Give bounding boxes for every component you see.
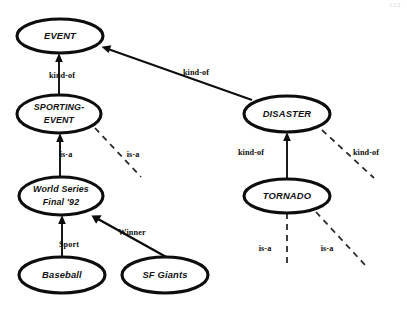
node-shape[interactable] — [19, 177, 103, 215]
edge-label: kind-of — [49, 71, 75, 80]
edge-sporting-event-to-event: kind-of — [49, 53, 75, 95]
node-label: DISASTER — [263, 108, 312, 119]
edge-tornado-instance-dashed-left: is-a — [259, 213, 287, 265]
edge-tornado-to-disaster: kind-of — [238, 132, 291, 178]
edge-label: is-a — [60, 150, 73, 159]
edge-label: is-a — [127, 150, 140, 159]
edge-sporting-event-instance-dashed: is-a — [95, 128, 141, 177]
edge-label: Winner — [118, 228, 146, 237]
edge-label: is-a — [321, 244, 334, 253]
edge-label: Sport — [59, 240, 79, 249]
edge-world-series-to-sporting-event: is-a — [56, 133, 72, 177]
edge-label: is-a — [259, 244, 272, 253]
node-world-series[interactable]: World Series Final '92 — [19, 177, 103, 215]
node-label-line2: Final '92 — [43, 197, 80, 207]
edge-tornado-instance-dashed-right: is-a — [316, 212, 366, 266]
edge-label: kind-of — [238, 148, 264, 157]
node-shape[interactable] — [17, 95, 101, 133]
node-label-line2: EVENT — [44, 115, 76, 125]
edge-label: kind-of — [353, 148, 379, 157]
edge-disaster-instance-dashed: kind-of — [322, 130, 379, 178]
node-event[interactable]: EVENT — [17, 19, 103, 53]
edge-line — [108, 49, 252, 100]
semantic-network-diagram: kind-of kind-of is-a is-a — [0, 0, 407, 318]
node-sporting-event[interactable]: SPORTING- EVENT — [17, 95, 101, 133]
node-label-line1: World Series — [33, 184, 89, 194]
node-tornado[interactable]: TORNADO — [244, 179, 330, 213]
node-label-line1: SPORTING- — [34, 102, 85, 112]
node-sf-giants[interactable]: SF Giants — [122, 257, 208, 293]
node-label: SF Giants — [142, 269, 187, 280]
edge-baseball-to-world-series: Sport — [58, 215, 79, 257]
node-label: TORNADO — [263, 190, 312, 201]
arrow-head-icon — [102, 45, 112, 53]
page-number: 122 — [389, 1, 401, 9]
edge-disaster-to-event: kind-of — [102, 45, 253, 100]
node-baseball[interactable]: Baseball — [19, 257, 105, 293]
edge-line — [316, 212, 366, 266]
node-label: Baseball — [42, 269, 82, 280]
node-label: EVENT — [44, 30, 77, 41]
node-disaster[interactable]: DISASTER — [244, 96, 330, 132]
edge-line — [98, 219, 168, 258]
edge-label: kind-of — [183, 68, 209, 77]
edge-layer: kind-of kind-of is-a is-a — [49, 45, 379, 266]
diagram-canvas: 122 kind-of kind-of is-a — [0, 0, 407, 318]
edge-sf-giants-to-world-series: Winner — [92, 215, 169, 258]
